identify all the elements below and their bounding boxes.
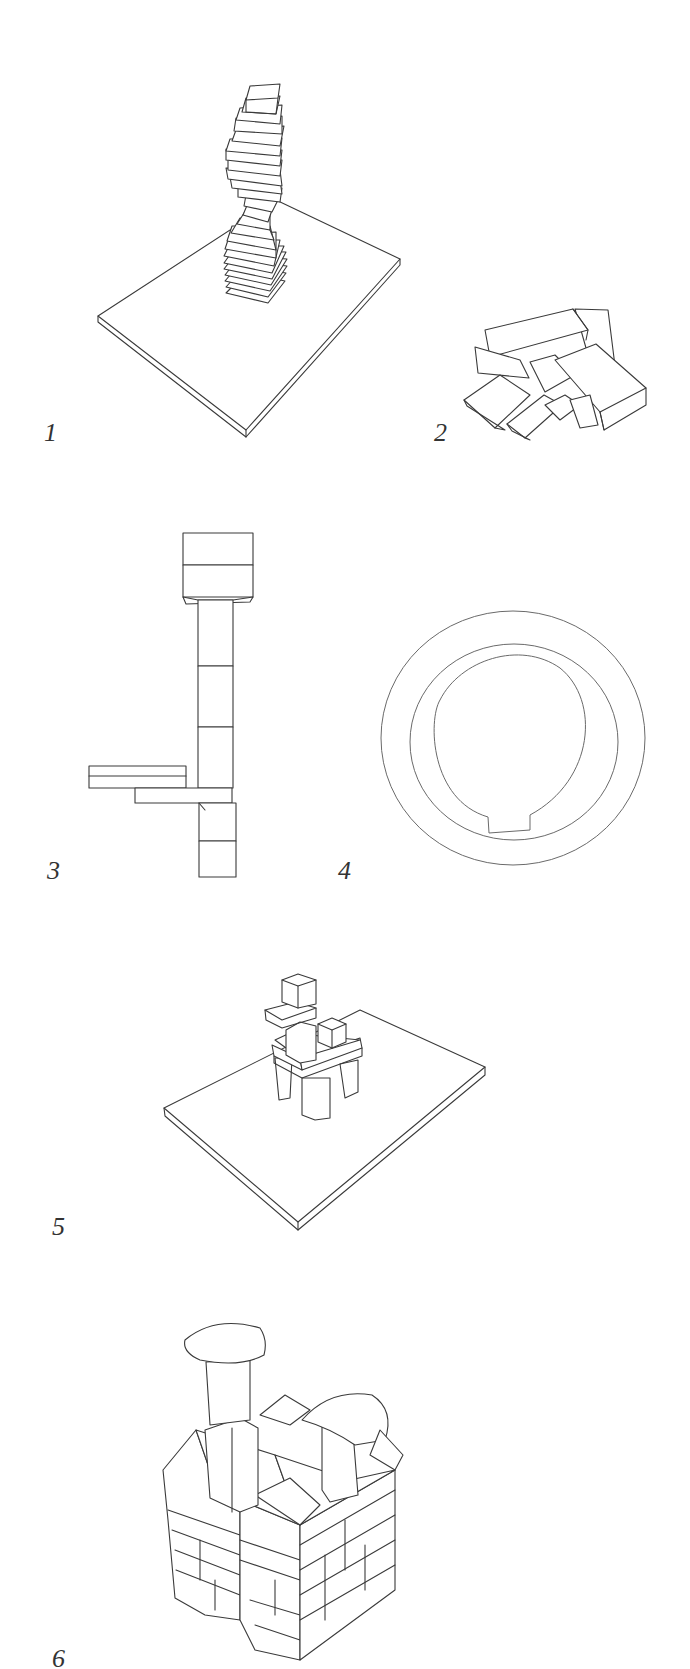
- figure-label-2: 2: [434, 420, 447, 446]
- illustration-plate: 1 2 3 4 5 6: [0, 0, 690, 1669]
- figure-4-drawing: [381, 611, 645, 865]
- figure-label-1: 1: [44, 420, 57, 446]
- line-drawings: [0, 0, 690, 1669]
- figure-3-drawing: [89, 533, 253, 877]
- figure-1-drawing: [98, 84, 400, 437]
- figure-label-6: 6: [52, 1646, 65, 1669]
- figure-5-drawing: [164, 974, 485, 1230]
- figure-label-4: 4: [338, 858, 351, 884]
- figure-label-3: 3: [47, 858, 60, 884]
- figure-6-drawing: [163, 1324, 403, 1660]
- figure-label-5: 5: [52, 1214, 65, 1240]
- figure-2-drawing: [464, 309, 646, 440]
